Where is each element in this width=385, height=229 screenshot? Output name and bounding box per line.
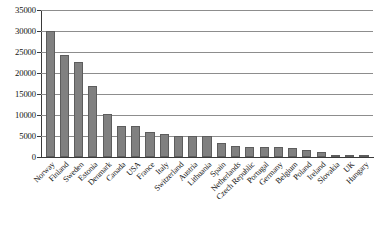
y-axis-tick-label: 15000 (15, 89, 36, 99)
y-axis-tick-label: 5000 (19, 131, 36, 141)
bar (117, 126, 126, 158)
bar (274, 147, 283, 157)
bar-slot (171, 10, 185, 157)
bar (359, 155, 368, 157)
y-axis-tick-label: 20000 (15, 68, 36, 78)
x-axis-category-labels: NorwayFinlandSwedenEstoniaDenmarkCanadaU… (41, 159, 373, 229)
x-label-slot: Slovakia (328, 159, 342, 229)
bar (202, 136, 211, 157)
bar (46, 31, 55, 157)
bar-slot (143, 10, 157, 157)
bar (302, 150, 311, 157)
bar (217, 143, 226, 157)
bar (74, 62, 83, 157)
bar-slot (72, 10, 86, 157)
bar-slot (100, 10, 114, 157)
y-axis-tick-label: 35000 (15, 5, 36, 15)
y-axis-tick-label: 0 (32, 152, 36, 162)
bar (174, 136, 183, 157)
bar-slot (271, 10, 285, 157)
bar-slot (257, 10, 271, 157)
y-axis-tick-label: 30000 (15, 26, 36, 36)
bar-slot (328, 10, 342, 157)
bar-chart: 05000100001500020000250003000035000 Norw… (0, 0, 385, 229)
bar (231, 146, 240, 157)
bar-slot (129, 10, 143, 157)
bar (160, 134, 169, 157)
bar-slot (200, 10, 214, 157)
bar (60, 55, 69, 157)
bar-slot (228, 10, 242, 157)
x-label-slot: Hungary (357, 159, 371, 229)
bar (331, 155, 340, 157)
bar-slot (186, 10, 200, 157)
bar (131, 126, 140, 157)
bar (103, 114, 112, 157)
bar-slot (314, 10, 328, 157)
bar-slot (343, 10, 357, 157)
bar-slot (57, 10, 71, 157)
bar-slot (286, 10, 300, 157)
bar (145, 132, 154, 157)
y-axis-tick-label: 25000 (15, 47, 36, 57)
bar-slot (157, 10, 171, 157)
x-axis-line (41, 157, 374, 158)
bar (260, 147, 269, 157)
bar (317, 152, 326, 157)
y-axis-tick-label: 10000 (15, 110, 36, 120)
y-axis-tick-labels: 05000100001500020000250003000035000 (0, 10, 38, 158)
y-axis-tick (37, 157, 41, 158)
bar-slot (43, 10, 57, 157)
bar-slot (243, 10, 257, 157)
bar-slot (214, 10, 228, 157)
bar-slot (86, 10, 100, 157)
plot-area (41, 10, 373, 157)
bar (245, 147, 254, 158)
bar (188, 136, 197, 157)
bar (345, 155, 354, 157)
bar (88, 86, 97, 157)
bar-slot (300, 10, 314, 157)
bar-slot (114, 10, 128, 157)
bar-series (41, 10, 373, 157)
bar (288, 148, 297, 157)
bar-slot (357, 10, 371, 157)
